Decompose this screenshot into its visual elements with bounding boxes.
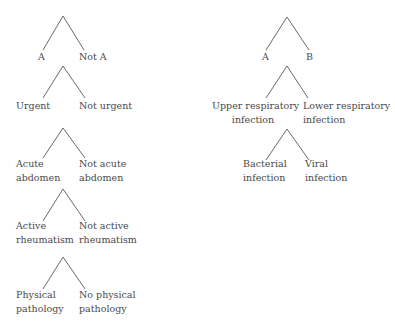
dichotomy-diagram: A Not A Urgent Not urgent Acute abdomen … — [0, 0, 395, 330]
branch-left-3 — [43, 128, 85, 158]
node-right-b: B — [306, 50, 313, 64]
node-physical-pathology: Physical pathology — [16, 288, 64, 316]
branch-right-1 — [266, 17, 309, 50]
branch-right-2 — [266, 66, 308, 98]
branch-left-2 — [43, 66, 85, 98]
node-urgent: Urgent — [16, 99, 50, 113]
node-active-rheumatism: Active rheumatism — [16, 219, 74, 247]
node-upper-respiratory-infection: Upper respiratory infection — [212, 99, 294, 127]
node-not-a: Not A — [79, 50, 107, 64]
branch-right-3 — [266, 129, 309, 160]
node-bacterial-infection: Bacterial infection — [243, 157, 287, 185]
branch-left-5 — [43, 257, 85, 289]
node-no-physical-pathology: No physical pathology — [79, 288, 136, 316]
node-viral-infection: Viral infection — [305, 157, 347, 185]
node-lower-respiratory-infection: Lower respiratory infection — [303, 99, 390, 127]
node-not-active-rheumatism: Not active rheumatism — [79, 219, 137, 247]
node-not-acute-abdomen: Not acute abdomen — [79, 157, 126, 185]
branch-left-1 — [43, 16, 84, 50]
node-acute-abdomen: Acute abdomen — [16, 157, 60, 185]
node-a: A — [38, 50, 45, 64]
node-right-a: A — [262, 50, 269, 64]
branch-left-4 — [43, 189, 85, 221]
node-not-urgent: Not urgent — [79, 99, 132, 113]
